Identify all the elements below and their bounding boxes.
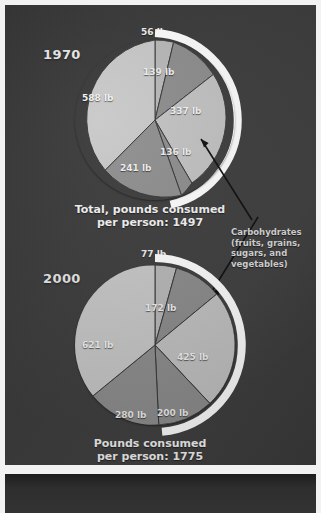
caption-2000-line2: per person: 1775 xyxy=(40,450,260,463)
slice-label-2000-4: 280 lb xyxy=(115,410,146,420)
caption-2000: Pounds consumed per person: 1775 xyxy=(40,437,260,463)
pie-chart-2000: 2000 77 lb xyxy=(5,235,316,465)
slice-label-2000-3: 200 lb xyxy=(157,408,188,418)
infographic-root: 1970 56 lb xyxy=(0,0,321,513)
chart-panel: 1970 56 lb xyxy=(5,5,316,465)
slice-label-2000-5: 621 lb xyxy=(82,340,113,350)
caption-2000-line1: Pounds consumed xyxy=(40,437,260,450)
footer-bar xyxy=(5,474,316,513)
slice-label-2000-2: 425 lb xyxy=(177,352,208,362)
slice-label-2000-1: 172 lb xyxy=(145,303,176,313)
